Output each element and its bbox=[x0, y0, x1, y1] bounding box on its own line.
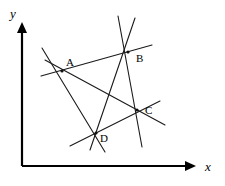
line-B-D bbox=[90, 18, 135, 150]
vertex-dot-A bbox=[60, 69, 63, 72]
axes-group bbox=[17, 22, 196, 171]
point-label-B: B bbox=[136, 52, 143, 64]
point-label-A: A bbox=[66, 56, 74, 68]
geometry-figure: y x A B C D bbox=[0, 0, 225, 186]
labels-group: y x A B C D bbox=[8, 6, 211, 174]
x-axis-label: x bbox=[204, 159, 211, 174]
y-axis-arrowhead-icon bbox=[17, 22, 27, 33]
vertex-dot-D bbox=[94, 131, 97, 134]
figure-canvas: y x A B C D bbox=[0, 0, 225, 186]
y-axis-label: y bbox=[8, 6, 16, 21]
vertex-dot-C bbox=[135, 108, 138, 111]
point-label-D: D bbox=[100, 132, 108, 144]
point-label-C: C bbox=[145, 104, 152, 116]
line-B-C bbox=[118, 16, 142, 147]
vertex-dot-B bbox=[126, 50, 129, 53]
x-axis-arrowhead-icon bbox=[185, 161, 196, 171]
